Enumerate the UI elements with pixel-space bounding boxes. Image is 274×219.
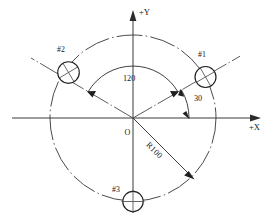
hole-1-label: #1 <box>198 50 206 59</box>
hole-1: #1 <box>195 50 216 88</box>
y-axis-arrowhead <box>130 10 137 21</box>
angle-dimension-30: 30 <box>178 89 202 120</box>
angle-30-label: 30 <box>194 94 202 103</box>
hole-3-label: #3 <box>112 185 120 194</box>
radius-leader-line <box>133 118 191 176</box>
centerline-hole-1 <box>133 56 240 118</box>
angle-120-arrowhead-left <box>87 91 96 98</box>
angle-120-arrowhead-right <box>170 91 179 98</box>
x-axis-arrowhead <box>250 115 261 122</box>
hole-2-label: #2 <box>57 45 65 54</box>
origin-label: O <box>125 128 131 137</box>
engineering-drawing-canvas: +X +Y O #1 #2 <box>0 0 274 219</box>
radius-label: R100 <box>144 140 164 160</box>
bolt-circle-drawing: +X +Y O #1 #2 <box>0 0 274 219</box>
hole-2: #2 <box>57 45 79 84</box>
x-axis-label: +X <box>249 122 261 132</box>
radius-dimension: R100 <box>133 118 195 180</box>
centerline-hole-2 <box>31 58 133 118</box>
radius-arrowhead <box>184 171 194 180</box>
y-axis-label: +Y <box>139 7 150 17</box>
hole-3: #3 <box>112 185 145 213</box>
angle-120-label: 120 <box>123 74 135 83</box>
x-axis: +X <box>12 115 261 133</box>
